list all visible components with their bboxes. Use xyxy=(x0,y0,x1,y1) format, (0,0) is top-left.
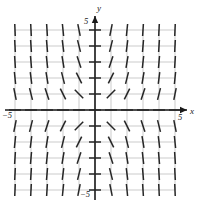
y-axis-tick-label-top: 5 xyxy=(84,17,88,26)
axis-arrowheads xyxy=(92,16,187,113)
x-axis-tick-label-left: −5 xyxy=(2,111,12,120)
slope-field-figure: y x 5 −5 −5 5 xyxy=(0,0,202,208)
y-axis-tick-label-bottom: −5 xyxy=(80,190,90,199)
x-axis-tick-label-right: 5 xyxy=(178,113,182,122)
slope-field-canvas xyxy=(0,0,202,208)
y-axis-label: y xyxy=(97,4,101,13)
x-axis-label: x xyxy=(190,107,194,116)
